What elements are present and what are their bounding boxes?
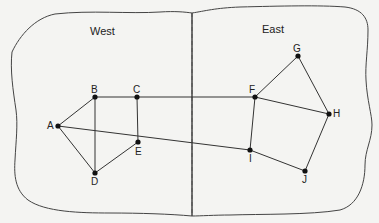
nodes	[55, 53, 331, 175]
diagram-canvas	[0, 0, 379, 223]
node-label-J: J	[302, 175, 307, 185]
edge-F-I	[250, 97, 255, 150]
node-label-G: G	[293, 44, 301, 54]
edge-D-E	[95, 142, 138, 173]
node-label-E: E	[135, 147, 142, 157]
node-label-F: F	[249, 85, 255, 95]
edge-G-H	[298, 56, 329, 114]
node-label-B: B	[91, 85, 98, 95]
node-label-C: C	[133, 85, 140, 95]
node-F	[252, 94, 257, 99]
east-region-label: East	[262, 24, 284, 35]
west-region-label: West	[90, 26, 115, 37]
edge-A-D	[58, 126, 95, 173]
node-D	[92, 170, 97, 175]
edge-I-J	[250, 150, 305, 171]
edge-F-G	[255, 56, 298, 97]
node-label-D: D	[91, 177, 98, 187]
east-region-outline	[192, 6, 372, 216]
edge-H-J	[305, 114, 329, 171]
node-H	[326, 111, 331, 116]
node-E	[135, 139, 140, 144]
node-label-H: H	[333, 109, 340, 119]
graph-diagram: ABCDEFGHIJ West East	[0, 0, 379, 223]
node-label-A: A	[47, 121, 54, 131]
edge-A-I	[58, 126, 250, 150]
node-B	[92, 94, 97, 99]
edge-C-E	[137, 97, 138, 142]
node-label-I: I	[249, 154, 252, 164]
node-A	[55, 123, 60, 128]
edge-A-B	[58, 97, 95, 126]
node-J	[302, 168, 307, 173]
node-C	[134, 94, 139, 99]
edge-F-H	[255, 97, 329, 114]
node-I	[247, 147, 252, 152]
edges	[58, 56, 329, 173]
west-region-outline	[11, 12, 192, 216]
node-G	[295, 53, 300, 58]
